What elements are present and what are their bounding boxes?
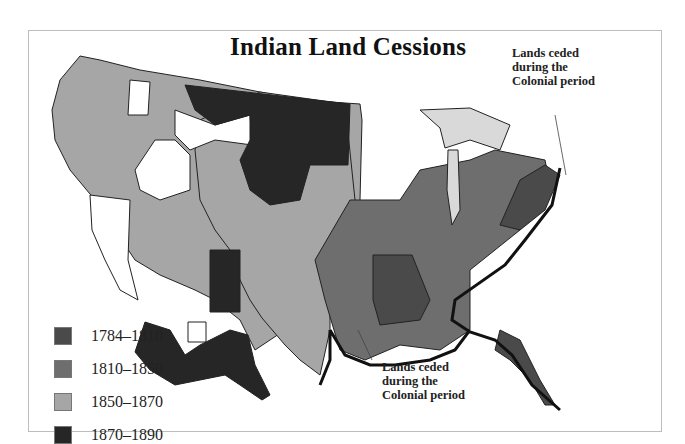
legend-label: 1870–1890: [91, 426, 163, 444]
legend-item-1870-1890: 1870–1890: [54, 422, 163, 444]
legend-swatch: [54, 393, 72, 411]
legend-label: 1784–1810: [91, 327, 163, 345]
legend-swatch: [54, 426, 72, 444]
annotation-line: during the: [382, 374, 465, 388]
region-utah-1870-1890: [210, 250, 240, 312]
legend-label: 1810–1850: [91, 360, 163, 378]
legend-item-1850-1870: 1850–1870: [54, 389, 163, 414]
annotation-line: Lands ceded: [512, 46, 595, 60]
legend-label: 1850–1870: [91, 393, 163, 411]
legend-item-1784-1810: 1784–1810: [54, 323, 163, 348]
legend-swatch: [54, 360, 72, 378]
annotation-line: Colonial period: [512, 74, 595, 88]
legend: 1784–1810 1810–1850 1850–1870 1870–1890: [54, 323, 163, 444]
annotation-line: Lands ceded: [382, 360, 465, 374]
region-wa-unshaded: [128, 80, 150, 115]
region-nm-unshaded: [188, 322, 206, 342]
annotation-line: during the: [512, 60, 595, 74]
annotation-southeast: Lands ceded during the Colonial period: [382, 360, 465, 402]
annotation-line: Colonial period: [382, 388, 465, 402]
annotation-northeast: Lands ceded during the Colonial period: [512, 46, 595, 88]
arrow-northeast: [555, 115, 566, 175]
region-southeast-1784-1810: [495, 330, 555, 405]
legend-item-1810-1850: 1810–1850: [54, 356, 163, 381]
legend-swatch: [54, 327, 72, 345]
great-lakes: [420, 108, 510, 150]
map-title: Indian Land Cessions: [230, 33, 466, 61]
